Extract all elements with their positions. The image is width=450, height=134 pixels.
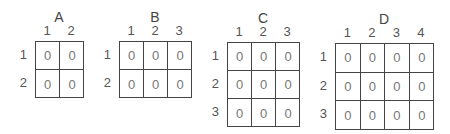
matrix-cell: 0	[276, 99, 300, 127]
row-label: 2	[313, 78, 327, 93]
column-label: 3	[275, 24, 299, 39]
matrix-cell: 0	[120, 70, 144, 98]
row-label: 1	[313, 49, 327, 64]
row-label: 3	[205, 104, 219, 119]
matrix-cell: 0	[36, 42, 60, 70]
matrix-cell: 0	[385, 73, 410, 102]
matrix-cell: 0	[336, 73, 361, 102]
matrix-cell: 0	[276, 71, 300, 99]
matrix-cell: 0	[385, 44, 410, 73]
matrix-cell: 0	[36, 70, 60, 98]
matrix-cell: 0	[410, 73, 435, 102]
column-label: 2	[251, 24, 275, 39]
matrix-grid: 000000	[119, 41, 192, 98]
matrix-cell: 0	[385, 101, 410, 130]
row-label: 2	[13, 75, 27, 90]
matrix-cell: 0	[410, 44, 435, 73]
matrix-cell: 0	[252, 71, 276, 99]
matrix-cell: 0	[168, 70, 192, 98]
column-label: 1	[119, 23, 143, 38]
matrix-grid: 0000	[35, 41, 84, 98]
matrix-cell: 0	[228, 43, 252, 71]
matrix-grid: 000000000	[227, 42, 300, 127]
column-label: 3	[167, 23, 191, 38]
matrix-cell: 0	[361, 73, 386, 102]
matrix-cell: 0	[361, 44, 386, 73]
matrix-cell: 0	[361, 101, 386, 130]
matrix-cell: 0	[144, 42, 168, 70]
matrix-cell: 0	[144, 70, 168, 98]
row-label: 2	[97, 75, 111, 90]
matrix-cell: 0	[336, 44, 361, 73]
matrix-cell: 0	[276, 43, 300, 71]
column-label: 2	[143, 23, 167, 38]
matrix-cell: 0	[252, 99, 276, 127]
column-label: 1	[335, 25, 360, 40]
matrix-cell: 0	[336, 101, 361, 130]
row-label: 3	[313, 106, 327, 121]
column-label: 3	[384, 25, 409, 40]
row-label: 1	[97, 47, 111, 62]
matrix-cell: 0	[60, 42, 84, 70]
row-label: 1	[205, 48, 219, 63]
matrix-cell: 0	[228, 71, 252, 99]
column-label: 1	[227, 24, 251, 39]
matrix-cell: 0	[168, 42, 192, 70]
column-label: 4	[409, 25, 434, 40]
matrix-cell: 0	[120, 42, 144, 70]
column-label: 2	[59, 23, 83, 38]
matrix-cell: 0	[410, 101, 435, 130]
row-label: 1	[13, 47, 27, 62]
matrix-grid: 000000000000	[335, 43, 434, 130]
matrix-cell: 0	[60, 70, 84, 98]
column-label: 2	[360, 25, 385, 40]
column-label: 1	[35, 23, 59, 38]
row-label: 2	[205, 76, 219, 91]
matrix-cell: 0	[252, 43, 276, 71]
matrix-cell: 0	[228, 99, 252, 127]
